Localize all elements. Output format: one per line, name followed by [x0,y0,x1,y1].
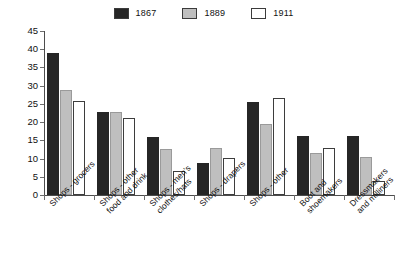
bar-1867-2 [147,137,159,195]
bar-1867-5 [297,136,309,195]
legend-item-1867: 1867 [114,8,157,19]
bar-chart: 1867 1889 1911 051015202530354045 Shops … [0,0,407,270]
x-tick-mark [344,195,345,200]
x-tick-mark [44,195,45,200]
x-axis-line [44,195,394,196]
legend-label-1867: 1867 [136,9,157,18]
y-tick-mark [40,122,44,123]
legend-item-1911: 1911 [251,8,293,19]
y-tick-mark [40,31,44,32]
y-tick-label: 30 [27,80,38,91]
y-tick-mark [40,104,44,105]
y-tick-label: 5 [33,171,38,182]
x-tick-mark [394,195,395,200]
legend-label-1911: 1911 [273,9,293,18]
y-tick-mark [40,49,44,50]
legend-swatch-icon-1867 [114,8,129,19]
x-tick-mark [294,195,295,200]
y-tick-label: 20 [27,116,38,127]
legend-label-1889: 1889 [204,9,225,18]
legend-item-1889: 1889 [182,8,225,19]
bar-1867-1 [97,112,109,195]
y-tick-label: 10 [27,153,38,164]
y-tick-mark [40,67,44,68]
y-tick-label: 0 [33,189,38,200]
y-tick-label: 25 [27,98,38,109]
y-tick-mark [40,86,44,87]
x-tick-mark [94,195,95,200]
y-tick-mark [40,177,44,178]
plot-area: 051015202530354045 [44,31,394,195]
y-tick-label: 45 [27,25,38,36]
y-tick-label: 40 [27,43,38,54]
y-tick-mark [40,140,44,141]
legend-swatch-icon-1889 [182,8,197,19]
x-tick-mark [144,195,145,200]
y-tick-label: 35 [27,61,38,72]
bar-1867-6 [347,136,359,195]
legend-swatch-icon-1911 [251,8,266,19]
x-tick-mark [244,195,245,200]
chart-legend: 1867 1889 1911 [0,8,407,19]
y-tick-label: 15 [27,134,38,145]
y-axis-line [44,31,45,195]
bar-1867-0 [47,53,59,195]
x-tick-mark [194,195,195,200]
bar-1867-4 [247,102,259,195]
y-tick-mark [40,159,44,160]
